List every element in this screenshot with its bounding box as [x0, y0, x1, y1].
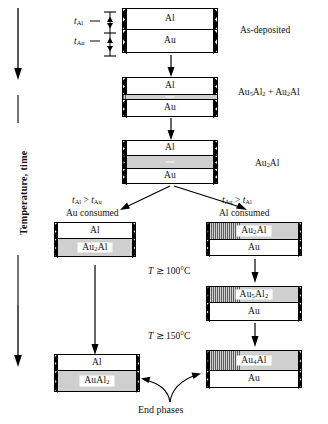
branch-consumed-left: Au consumed — [66, 208, 119, 219]
broken-edge-right-icon — [129, 238, 142, 258]
thickness-subscript-al: Al — [77, 19, 83, 26]
stack-right-end-au4al: Au4Al Au — [206, 350, 302, 388]
layer-au: Au — [122, 168, 218, 184]
relation-symbol: ≳ — [156, 331, 164, 341]
broken-edge-left-icon — [200, 222, 213, 241]
layer-label: Au — [160, 36, 180, 46]
layer-au: Au — [122, 29, 218, 53]
flow-arrow-2 — [164, 118, 178, 140]
layer-al: Al — [122, 8, 218, 29]
layer-label: Au4Al — [237, 356, 270, 366]
broken-edge-right-icon — [295, 222, 308, 241]
temperature-value: 150°C — [166, 331, 190, 341]
layer-label: Al — [161, 81, 179, 91]
thickness-dimension-arrows — [90, 8, 122, 62]
axis-tick-upper — [10, 95, 32, 123]
layer-label: Au2Al — [237, 226, 270, 236]
t-sub-al: Al — [75, 198, 81, 205]
layer-label: Au2Al — [78, 243, 111, 253]
branch-consumed-right: Al consumed — [219, 208, 269, 219]
layer-label: Al — [161, 14, 179, 24]
layer-label: Al — [88, 358, 106, 368]
sub-5: 5 — [250, 90, 253, 97]
end-phases-pointers — [130, 358, 210, 404]
broken-edge-right-icon — [211, 8, 224, 31]
broken-edge-right-icon — [211, 140, 224, 157]
broken-edge-right-icon — [295, 239, 308, 257]
t-sub-au: Au — [94, 198, 102, 205]
layer-label: Au — [160, 103, 180, 113]
stack-right-au5al2: Au5Al2 Au — [206, 286, 302, 321]
relational-operator: > — [83, 195, 88, 205]
thickness-subscript-au: Au — [77, 39, 85, 46]
side-label-au2al: Au2Al — [255, 158, 279, 169]
broken-edge-left-icon — [200, 239, 213, 257]
flow-arrow-1 — [164, 55, 178, 77]
relation-symbol: ≳ — [156, 266, 164, 276]
al-au-reaction-diagram: Temperature, time tAl tAu Al — [0, 0, 328, 424]
broken-edge-left-icon — [116, 77, 129, 96]
layer-intermetallic — [122, 155, 218, 168]
condition-temperature-150: T ≳ 150°C — [148, 331, 190, 342]
branch-condition-right: tAu > tAl — [222, 195, 252, 206]
broken-edge-left-icon — [48, 354, 61, 372]
layer-au: Au — [206, 239, 302, 256]
branch-condition-left: tAl > tAu — [72, 195, 102, 206]
broken-edge-right-icon — [295, 350, 308, 372]
layer-au: Au — [122, 99, 218, 117]
broken-edge-right-icon — [295, 370, 308, 389]
layer-label: Au — [244, 374, 264, 384]
layer-label: Au — [244, 307, 264, 317]
broken-edge-left-icon — [200, 302, 213, 322]
broken-edge-right-icon — [211, 168, 224, 185]
broken-edge-right-icon — [295, 286, 308, 304]
layer-au4al: Au4Al — [206, 350, 302, 370]
stack-left-au2al: Al Au2Al — [54, 222, 136, 257]
sub-2: 2 — [262, 90, 265, 97]
layer-au5al2: Au5Al2 — [206, 286, 302, 302]
stack-as-deposited: Al Au — [122, 8, 218, 53]
broken-edge-right-icon — [211, 77, 224, 96]
flow-arrow-left-to-end — [88, 265, 102, 355]
layer-label: AuAl2 — [80, 376, 113, 386]
t-sub-al: Al — [245, 198, 251, 205]
layer-label: Al — [161, 143, 179, 153]
temperature-symbol: T — [148, 331, 153, 341]
broken-edge-right-icon — [295, 302, 308, 322]
broken-edge-left-icon — [116, 140, 129, 157]
thickness-label-au: tAu — [74, 36, 85, 47]
stack-right-au2al: Au2Al Au — [206, 222, 302, 256]
flow-arrow-right-2 — [248, 323, 262, 347]
broken-edge-left-icon — [200, 286, 213, 304]
sub-2: 2 — [267, 161, 270, 168]
temperature-value: 100°C — [166, 266, 190, 276]
layer-al: Al — [122, 77, 218, 94]
layer-label: Au — [160, 171, 180, 181]
stack-au2al: Al Au — [122, 140, 218, 184]
layer-al: Al — [54, 222, 136, 238]
relational-operator: > — [235, 195, 240, 205]
stack-left-end-aual2: Al AuAl2 — [54, 354, 140, 392]
axis-tick-lower — [10, 255, 32, 305]
flow-arrow-right-1 — [248, 259, 262, 283]
sub-2b: 2 — [287, 90, 290, 97]
axis-arrow-bottom — [10, 305, 32, 367]
thickness-label-al: tAl — [74, 16, 83, 27]
layer-label: Au5Al2 — [236, 290, 273, 300]
layer-au: Au — [206, 302, 302, 321]
side-label-first-compounds: Au5Al2 + Au2Al — [238, 87, 300, 98]
layer-aual2: AuAl2 — [54, 370, 140, 392]
layer-al: Al — [54, 354, 140, 370]
layer-au2al: Au2Al — [54, 238, 136, 257]
layer-al: Al — [122, 140, 218, 155]
broken-edge-right-icon — [129, 222, 142, 240]
broken-edge-left-icon — [116, 168, 129, 185]
condition-temperature-100: T ≳ 100°C — [148, 266, 190, 277]
broken-edge-left-icon — [48, 222, 61, 240]
stack-first-compounds: Al Au — [122, 77, 218, 117]
temperature-time-axis-arrow — [10, 8, 32, 80]
broken-edge-right-icon — [211, 29, 224, 54]
end-phases-label: End phases — [138, 404, 183, 416]
layer-label: Au — [244, 243, 264, 253]
temperature-symbol: T — [148, 266, 153, 276]
